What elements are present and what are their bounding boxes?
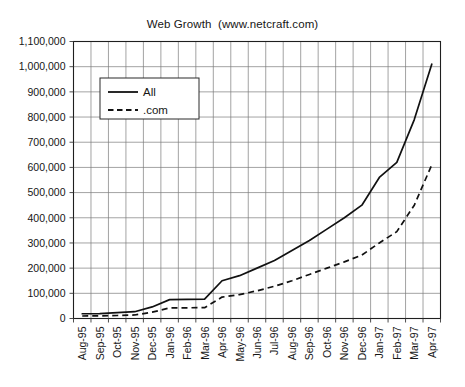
y-axis-tick-label: 500,000 [28,186,66,198]
y-axis-tick-label: 200,000 [28,262,66,274]
x-axis-tick-label: Jan-96 [164,326,176,358]
x-axis-tick-label: Dec-96 [356,326,368,360]
legend-label: .com [143,104,168,116]
x-axis-tick-label: Aug-95 [76,326,88,360]
y-axis-tick-label: 600,000 [28,161,66,173]
x-axis-tick-label: Feb-97 [391,326,403,359]
x-axis-tick-label: Mar-96 [199,326,211,359]
x-axis-tick-label: Aug-96 [286,326,298,360]
chart-canvas: 0100,000200,000300,000400,000500,000600,… [0,0,465,387]
y-axis-tick-label: 800,000 [28,111,66,123]
x-axis-tick-label: Jun-96 [251,326,263,358]
x-axis-labels: Aug-95Sep-95Oct-95Nov-95Dec-95Jan-96Feb-… [76,326,438,361]
x-axis-tick-label: Feb-96 [181,326,193,359]
y-axis-tick-label: 700,000 [28,136,66,148]
y-axis-tick-label: 900,000 [28,86,66,98]
legend-label: All [143,86,156,98]
y-axis-labels: 0100,000200,000300,000400,000500,000600,… [19,35,66,324]
x-axis-tick-label: Apr-96 [216,326,228,358]
x-axis-tick-label: Nov-95 [129,326,141,360]
y-axis-tick-label: 0 [60,312,66,324]
web-growth-chart: Web Growth (www.netcraft.com) 0100,00020… [0,0,465,387]
x-axis-tick-label: Oct-95 [111,326,123,358]
x-axis-tick-label: Oct-96 [321,326,333,358]
y-axis-tick-label: 1,000,000 [19,60,66,72]
x-axis-tick-label: Jan-97 [373,326,385,358]
y-axis-tick-label: 400,000 [28,212,66,224]
x-axis-tick-label: Jul-96 [268,326,280,355]
x-axis-tick-label: Sep-95 [94,326,106,360]
x-axis-tick-label: Apr-97 [426,326,438,358]
x-axis-tick-label: May-96 [234,326,246,361]
x-axis-tick-label: Sep-96 [303,326,315,360]
y-axis-tick-label: 100,000 [28,287,66,299]
y-axis-tick-label: 1,100,000 [19,35,66,47]
x-axis-tick-label: Nov-96 [338,326,350,360]
x-axis-tick-label: Mar-97 [408,326,420,359]
chart-legend: All.com [100,78,199,119]
y-axis-tick-label: 300,000 [28,237,66,249]
x-axis-tick-label: Dec-95 [146,326,158,360]
